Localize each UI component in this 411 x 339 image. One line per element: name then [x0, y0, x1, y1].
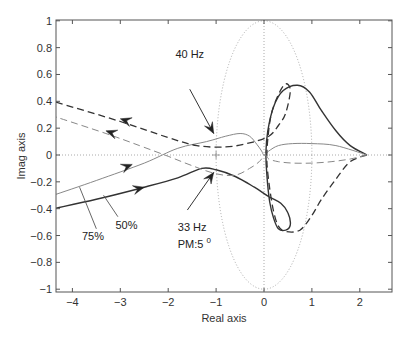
- nyquist-chart: 40 Hz33 HzPM:5075%50% −4−3−2−101210.80.6…: [0, 0, 411, 339]
- series-line-0: [53, 85, 367, 230]
- annotation-leader-line: [104, 195, 118, 216]
- y-tick-label: 0.4: [37, 95, 52, 107]
- direction-arrows: [106, 118, 144, 195]
- x-tick-label: −3: [114, 296, 127, 308]
- series-line-1: [53, 134, 367, 196]
- y-tick-label: 0.8: [37, 42, 52, 54]
- x-tick-label: −1: [210, 296, 223, 308]
- data-series: [53, 84, 367, 232]
- y-axis-label: Imag axis: [15, 132, 27, 180]
- y-tick-label: 0: [46, 149, 52, 161]
- plot-frame: [56, 20, 392, 292]
- annotation-label: PM:50: [178, 236, 212, 250]
- x-axis-label: Real axis: [201, 312, 247, 324]
- y-tick-label: 1: [46, 15, 52, 27]
- x-tick-label: 0: [261, 296, 267, 308]
- pointer-arrowhead-icon: [204, 172, 214, 184]
- pointer-arrowhead-icon: [205, 122, 214, 134]
- y-tick-label: 0.6: [37, 68, 52, 80]
- y-tick-label: −0.2: [30, 176, 52, 188]
- series-line-2: [53, 84, 367, 232]
- y-tick-label: −0.8: [30, 256, 52, 268]
- y-tick-label: 0.2: [37, 122, 52, 134]
- annotations: 40 Hz33 HzPM:5075%50%: [80, 48, 214, 249]
- series-line-3: [53, 116, 367, 175]
- y-tick-label: −0.6: [30, 230, 52, 242]
- annotation-label: 33 Hz: [178, 221, 207, 233]
- annotation-label: 40 Hz: [175, 48, 204, 60]
- superscript-degree: 0: [206, 236, 211, 245]
- x-tick-label: 1: [309, 296, 315, 308]
- axis-ticks: −4−3−2−101210.80.60.40.20−0.2−0.4−0.6−0.…: [30, 15, 392, 308]
- y-tick-label: −0.4: [30, 203, 52, 215]
- critical-point-marker: [212, 151, 220, 159]
- annotation-label: 50%: [116, 219, 138, 231]
- x-tick-label: −2: [162, 296, 175, 308]
- annotation-leader-line: [80, 187, 97, 229]
- x-tick-label: 2: [357, 296, 363, 308]
- annotation-pointer: [190, 89, 214, 133]
- annotation-label: 75%: [82, 230, 104, 242]
- reference-lines: [56, 20, 392, 292]
- y-tick-label: −1: [39, 283, 52, 295]
- x-tick-label: −4: [66, 296, 79, 308]
